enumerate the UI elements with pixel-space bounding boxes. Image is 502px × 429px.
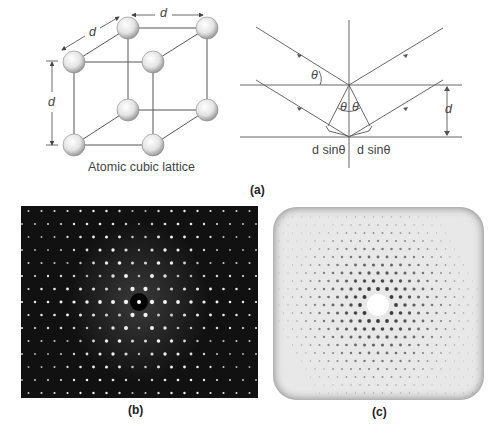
lattice-dim-left: d (48, 95, 55, 109)
lattice-caption: Atomic cubic lattice (88, 160, 195, 174)
lattice-atoms (63, 17, 218, 156)
diffraction-spots-dark (273, 207, 484, 400)
lattice-edges (74, 28, 207, 145)
theta-wedge-left: θ (340, 100, 347, 114)
lattice-dim-diag: d (89, 25, 96, 39)
panel-b-label: (b) (128, 403, 143, 417)
panel-a-label: (a) (250, 183, 265, 197)
path-diff-right: d sinθ (357, 143, 390, 157)
path-diff-left: d sinθ (312, 143, 345, 157)
lattice-dim-top: d (160, 6, 167, 20)
xray-diffraction-image (273, 207, 484, 400)
theta-wedge-right: θ (352, 100, 359, 114)
electron-diffraction-image (21, 206, 258, 398)
panel-c-label: (c) (372, 405, 387, 419)
diffraction-spots-bright (21, 206, 258, 398)
theta-incident: θ (311, 68, 318, 82)
cubic-lattice-diagram (0, 0, 240, 180)
plane-spacing-label: d (445, 102, 452, 116)
